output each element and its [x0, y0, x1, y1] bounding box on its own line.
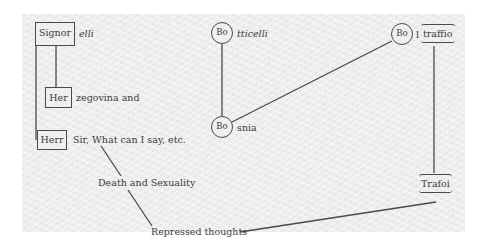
herr-suffix: Sir, What can I say, etc. — [73, 134, 186, 145]
death-sexuality-label: Death and Sexuality — [98, 177, 195, 188]
signor-suffix: elli — [79, 28, 94, 39]
botticelli-circle-label: Bo — [216, 27, 227, 37]
bosnia-circle: Bo — [211, 116, 233, 138]
edge-death-repressed — [128, 190, 152, 226]
repressed-thoughts-label: Repressed thoughts — [151, 226, 247, 237]
boltraffio-bracket-label: traffio — [423, 28, 453, 39]
bosnia-suffix: snia — [237, 122, 257, 133]
signor-box: Signor — [35, 22, 75, 46]
signor-box-label: Signor — [39, 27, 71, 38]
boltraffio-bracket: traffio — [421, 24, 455, 43]
her-box-label: Her — [49, 92, 67, 103]
edge-herr-death — [101, 146, 121, 176]
herr-box-label: Herr — [41, 134, 64, 145]
trafoi-bracket-label: Trafoi — [421, 178, 450, 189]
edge-bosnia-boltraffio — [232, 41, 392, 122]
boltraffio-circle: Bo — [391, 23, 413, 45]
bosnia-circle-label: Bo — [216, 121, 227, 131]
her-box: Her — [45, 87, 72, 108]
botticelli-suffix: tticelli — [237, 28, 268, 39]
boltraffio-circle-label: Bo — [396, 28, 407, 38]
botticelli-circle: Bo — [211, 22, 233, 44]
herr-box: Herr — [37, 130, 67, 150]
her-suffix: zegovina and — [76, 92, 140, 103]
boltraffio-mid: l — [416, 29, 419, 40]
trafoi-bracket: Trafoi — [419, 174, 452, 193]
edge-repressed-trafoi — [240, 202, 436, 232]
